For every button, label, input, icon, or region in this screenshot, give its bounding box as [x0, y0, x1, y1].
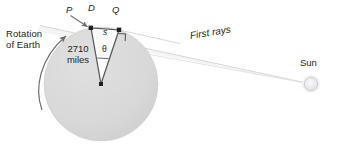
- earth-center-marker: [99, 82, 103, 86]
- earth-sun-diagram: Rotation of Earth 2710 miles P D Q s θ F…: [0, 0, 337, 145]
- rotation-of-earth-label: Rotation of Earth: [6, 29, 42, 50]
- arc-length-s-label: s: [103, 28, 107, 38]
- sun-circle: [304, 77, 318, 91]
- rotation-label-line2: of Earth: [6, 40, 42, 51]
- point-d-label: D: [88, 3, 95, 14]
- theta-chord: [97, 58, 108, 59]
- pointer-arrow-icon: [71, 16, 88, 27]
- point-d-marker: [89, 26, 93, 30]
- radius-label-line2: miles: [58, 55, 98, 66]
- angle-theta-label: θ: [102, 45, 107, 55]
- point-p-label: P: [66, 5, 72, 16]
- point-q-label: Q: [112, 5, 119, 16]
- diagram-canvas: [0, 0, 337, 145]
- sun-label: Sun: [300, 58, 317, 69]
- point-q-marker: [117, 28, 121, 32]
- earth-radius-label: 2710 miles: [58, 44, 98, 65]
